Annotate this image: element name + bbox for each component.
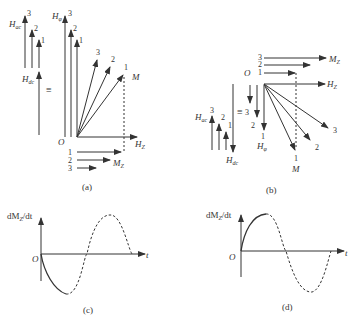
mz-num-3: 3: [68, 164, 72, 173]
h-phi-label: Hφ: [256, 141, 268, 152]
m-num-3: 3: [333, 126, 337, 135]
h-phi-num-3: 3: [68, 9, 72, 18]
solid-curve: [41, 254, 66, 294]
h-phi-num-3: 3: [245, 108, 249, 117]
panel-d: [241, 214, 344, 292]
panel-c-labels: dMZ/dt O t (c): [7, 211, 149, 315]
m-vector-2: [264, 84, 310, 140]
caption-c: (c): [83, 305, 93, 315]
h-phi-label: Hφ: [51, 11, 63, 22]
hz-label: HZ: [326, 79, 338, 90]
caption-b: (b): [266, 185, 277, 195]
t-label: t: [345, 248, 348, 258]
origin-label: O: [229, 252, 236, 262]
mz-label: MZ: [328, 54, 341, 65]
m-vector-3: [77, 60, 97, 137]
dashed-curve: [66, 215, 132, 294]
t-label: t: [146, 250, 149, 260]
panel-d-labels: dMZ/dt O t (d): [206, 210, 348, 312]
m-num-1: 1: [294, 154, 298, 163]
mz-label: MZ: [112, 158, 125, 169]
h-dc-label: Hdc: [21, 74, 35, 85]
hz-label: HZ: [134, 139, 146, 150]
panel-c: [41, 215, 145, 294]
panel-b: [212, 58, 328, 152]
m-num-3: 3: [96, 48, 100, 57]
equiv-symbol: ≡: [46, 84, 52, 95]
h-ac-num-1: 1: [41, 36, 45, 45]
h-phi-num-2: 2: [251, 121, 255, 130]
h-phi-num-2: 2: [73, 24, 77, 33]
m-vector-1: [264, 84, 295, 150]
equiv-symbol: ≡: [237, 106, 243, 117]
figure-canvas: Hac 3 2 1 Hdc ≡ Hφ 3 2 1 3 2 1 M O HZ 1 …: [0, 0, 355, 317]
origin-label: O: [244, 68, 251, 78]
y-axis-label: dMZ/dt: [7, 211, 33, 222]
h-ac-num-1: 1: [228, 121, 232, 130]
panel-b-labels: 3 2 1 MZ O HZ ≡ 3 2 1 Hφ 3 2 1 M 3 2 1 H…: [194, 53, 341, 195]
m-vector-1: [77, 75, 123, 137]
caption-d: (d): [282, 302, 293, 312]
caption-a: (a): [82, 182, 92, 192]
origin-label: O: [58, 137, 65, 147]
m-label: M: [291, 164, 300, 174]
m-label: M: [131, 72, 140, 82]
dashed-curve: [266, 214, 331, 292]
h-ac-num-2: 2: [34, 24, 38, 33]
y-axis-label: dMZ/dt: [206, 210, 232, 221]
origin-label: O: [32, 254, 39, 264]
h-ac-label: Hac: [194, 112, 208, 123]
m-num-2: 2: [111, 55, 115, 64]
h-ac-num-2: 2: [221, 113, 225, 122]
h-ac-num-3: 3: [27, 9, 31, 18]
h-phi-num-1: 1: [261, 132, 265, 141]
mz-num-1: 1: [258, 68, 262, 77]
m-num-2: 2: [315, 143, 319, 152]
h-phi-num-1: 1: [79, 36, 83, 45]
m-num-1: 1: [124, 63, 128, 72]
h-ac-label: Hac: [8, 19, 22, 30]
solid-curve: [241, 214, 266, 251]
h-dc-label: Hdc: [225, 155, 239, 166]
h-ac-num-3: 3: [210, 106, 214, 115]
m-vector-2: [77, 67, 110, 137]
